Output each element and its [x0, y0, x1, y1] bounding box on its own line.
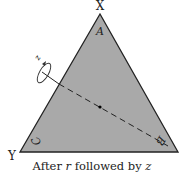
axis-extension: [42, 72, 59, 84]
caption: After r followed by z: [32, 159, 153, 173]
rotation-arrowhead-icon: [42, 61, 46, 66]
triangle-diagram: X Y A C B z After r followed by z: [0, 0, 184, 175]
center-dot: [98, 105, 101, 108]
vertex-label-x: X: [96, 0, 105, 13]
corner-label-a: A: [95, 25, 104, 38]
vertex-label-y: Y: [7, 149, 17, 163]
rotation-axis-label: z: [32, 53, 43, 63]
